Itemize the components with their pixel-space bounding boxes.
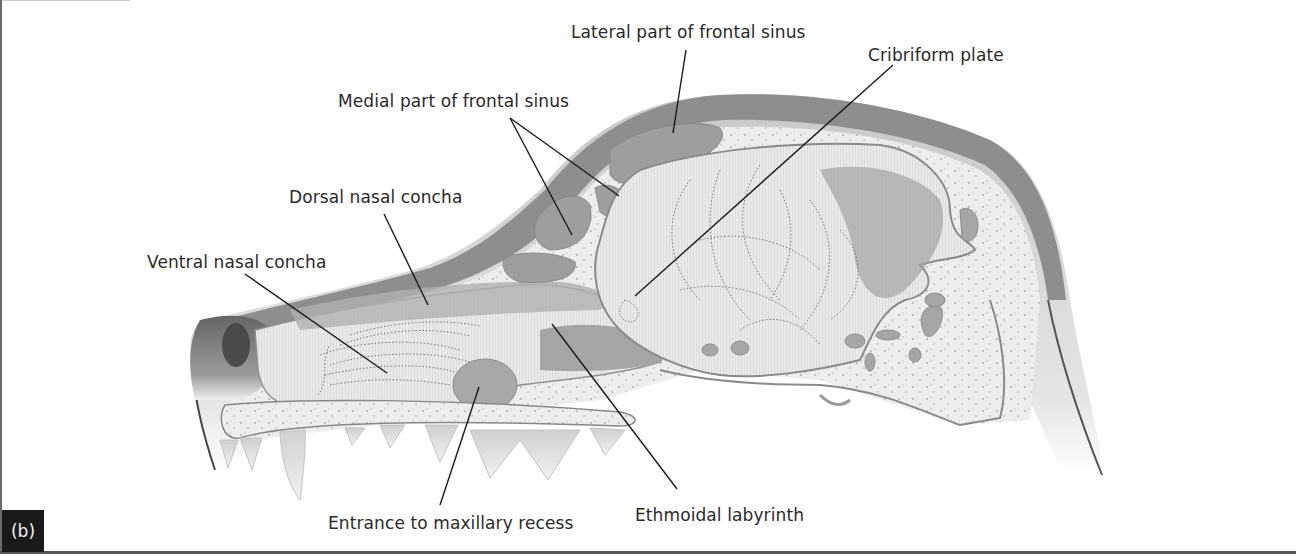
label-ethmoidal-labyrinth: Ethmoidal labyrinth [635, 505, 804, 525]
teeth [220, 425, 625, 500]
label-entrance-maxillary-recess: Entrance to maxillary recess [328, 513, 574, 533]
label-ventral-nasal-concha: Ventral nasal concha [147, 252, 326, 272]
label-dorsal-nasal-concha: Dorsal nasal concha [289, 187, 462, 207]
label-medial-frontal-sinus: Medial part of frontal sinus [338, 91, 569, 111]
skull-illustration [0, 0, 1296, 556]
figure-frame: Lateral part of frontal sinus Cribriform… [0, 0, 1296, 556]
label-cribriform-plate: Cribriform plate [868, 45, 1004, 65]
label-lateral-frontal-sinus: Lateral part of frontal sinus [571, 22, 805, 42]
panel-label-badge: (b) [2, 510, 44, 552]
